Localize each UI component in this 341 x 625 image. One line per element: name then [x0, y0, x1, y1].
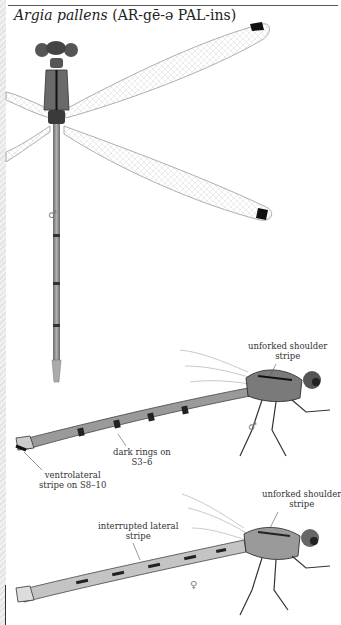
- label-interrupted-lateral-stripe: interrupted lateral stripe: [98, 521, 178, 541]
- label-line: stripe: [98, 531, 178, 541]
- label-dark-rings: dark rings on S3–6: [113, 447, 171, 467]
- label-line: stripe: [248, 351, 327, 361]
- male-dorsal-figure: [6, 22, 272, 382]
- label-line: stripe on S8–10: [39, 480, 106, 490]
- label-line: unforked shoulder: [262, 489, 341, 499]
- label-line: S3–6: [113, 457, 171, 467]
- male-lateral-sex-symbol: ♂: [248, 421, 257, 432]
- male-lateral-figure: [16, 350, 330, 456]
- label-male-unforked-shoulder-stripe: unforked shoulder stripe: [248, 341, 327, 361]
- female-lateral-figure: [16, 494, 330, 615]
- label-ventrolateral-stripe: ventrolateral stripe on S8–10: [39, 470, 106, 490]
- female-lateral-sex-symbol: ♀: [190, 579, 197, 590]
- label-line: unforked shoulder: [248, 341, 327, 351]
- label-female-unforked-shoulder-stripe: unforked shoulder stripe: [262, 489, 341, 509]
- label-line: stripe: [262, 499, 341, 509]
- male-dorsal-sex-symbol: ♂: [48, 209, 57, 220]
- label-line: ventrolateral: [39, 470, 106, 480]
- label-line: dark rings on: [113, 447, 171, 457]
- label-line: interrupted lateral: [98, 521, 178, 531]
